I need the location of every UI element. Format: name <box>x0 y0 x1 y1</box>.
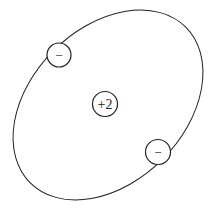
nucleus-charge-label: +2 <box>98 97 113 112</box>
electron-top: − <box>47 43 71 67</box>
electron-bottom: − <box>146 140 171 165</box>
electron-charge-label: − <box>154 145 161 160</box>
electron-charge-label: − <box>55 48 62 63</box>
nucleus: +2 <box>93 92 118 117</box>
atom-diagram: +2 − − <box>0 0 212 208</box>
